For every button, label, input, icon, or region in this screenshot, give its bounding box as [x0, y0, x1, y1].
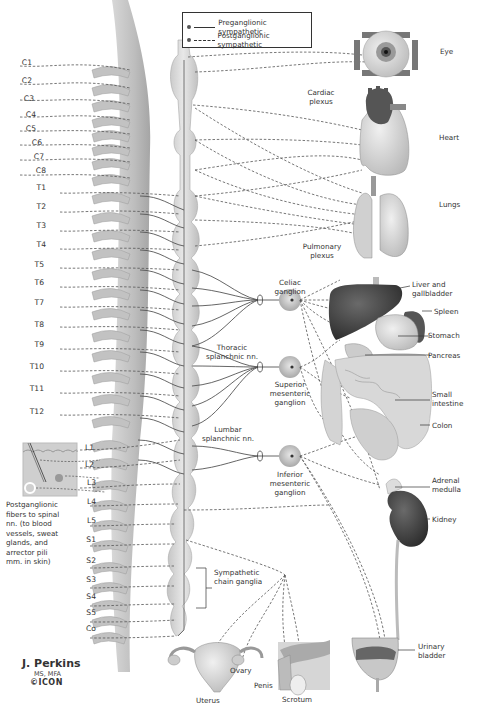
- segment-label: L5: [74, 516, 96, 525]
- prevertebral-ganglia: [279, 289, 301, 467]
- label-lumbar-splanchnic: Lumbar splanchnic nn.: [196, 425, 260, 443]
- segment-label: C4: [14, 110, 36, 119]
- label-eye: Eye: [440, 47, 453, 56]
- segment-label: S2: [74, 556, 96, 565]
- dot-icon: [187, 25, 191, 29]
- dot-icon: [187, 38, 191, 42]
- artist-signature: J. Perkins MS, MFA ©ICON: [22, 657, 81, 687]
- legend: Preganglionic sympathetic Postganglionic…: [182, 12, 312, 48]
- label-penis: Penis: [254, 681, 273, 690]
- segment-label: T10: [22, 362, 44, 371]
- label-liver: Liver and gallbladder: [412, 280, 452, 298]
- sympathetic-nervous-system-diagram: Preganglionic sympathetic Postganglionic…: [0, 0, 480, 727]
- solid-line-icon: [194, 27, 215, 28]
- segment-label: C2: [10, 76, 32, 85]
- label-celiac-ganglion: Celiac ganglion: [260, 278, 320, 296]
- lungs-illustration: [353, 176, 408, 258]
- superior-mesenteric-ganglion: [279, 356, 301, 378]
- sympathetic-chain: [167, 40, 199, 636]
- label-superior-mesenteric-ganglion: Superior mesenteric ganglion: [258, 380, 322, 407]
- segment-label: C7: [22, 152, 44, 161]
- eye-illustration: [354, 31, 418, 77]
- label-pancreas: Pancreas: [428, 351, 460, 360]
- dashed-line-icon: [194, 40, 215, 41]
- segment-label: T11: [22, 384, 44, 393]
- label-urinary-bladder: Urinary bladder: [418, 642, 445, 660]
- publisher-logo: ©ICON: [30, 678, 81, 687]
- segment-label: L2: [72, 460, 94, 469]
- label-spleen: Spleen: [434, 307, 459, 316]
- label-stomach: Stomach: [428, 331, 460, 340]
- segment-label: C1: [10, 58, 32, 67]
- segment-label: T4: [24, 240, 46, 249]
- stomach-illustration: [376, 315, 419, 350]
- label-heart: Heart: [439, 133, 459, 142]
- segment-label: S5: [74, 608, 96, 617]
- segment-label: L4: [74, 497, 96, 506]
- label-lungs: Lungs: [439, 200, 460, 209]
- segment-label: T3: [24, 221, 46, 230]
- label-small-intestine: Small intestine: [432, 390, 463, 408]
- heart-illustration: [360, 86, 409, 175]
- segment-label: C5: [14, 124, 36, 133]
- segment-label: T2: [24, 202, 46, 211]
- segment-label: T12: [22, 407, 44, 416]
- label-scrotum: Scrotum: [282, 695, 312, 704]
- skin-note: Postganglionic fibers to spinal nn. (to …: [6, 500, 59, 567]
- inferior-mesenteric-ganglion: [279, 445, 301, 467]
- label-adrenal-medulla: Adrenal medulla: [432, 476, 461, 494]
- label-kidney: Kidney: [432, 515, 457, 524]
- segment-label: T6: [22, 278, 44, 287]
- legend-postganglionic: Postganglionic sympathetic: [187, 31, 311, 49]
- label-pulmonary-plexus: Pulmonary plexus: [292, 242, 352, 260]
- label-thoracic-splanchnic: Thoracic splanchnic nn.: [200, 343, 264, 361]
- kidney-illustration: [386, 479, 428, 640]
- segment-label: S4: [74, 592, 96, 601]
- male-genitalia-illustration: [278, 640, 330, 695]
- segment-label: L1: [72, 443, 94, 452]
- label-uterus: Uterus: [196, 696, 220, 705]
- segment-label: S3: [74, 575, 96, 584]
- segment-label: T7: [22, 298, 44, 307]
- segment-label: C6: [20, 138, 42, 147]
- segment-label: Co: [74, 624, 96, 633]
- segment-label: T1: [24, 183, 46, 192]
- segment-label: S1: [74, 535, 96, 544]
- segment-label: C8: [24, 166, 46, 175]
- segment-label: L3: [74, 478, 96, 487]
- segment-label: T5: [22, 260, 44, 269]
- label-ovary: Ovary: [230, 666, 252, 675]
- label-inferior-mesenteric-ganglion: Inferior mesenteric ganglion: [258, 470, 322, 497]
- label-sympathetic-chain-ganglia: Sympathetic chain ganglia: [214, 568, 262, 586]
- segment-label: T9: [22, 340, 44, 349]
- spinal-cord: [92, 0, 150, 672]
- segment-label: C3: [12, 94, 34, 103]
- label-cardiac-plexus: Cardiac plexus: [296, 88, 346, 106]
- label-colon: Colon: [432, 421, 452, 430]
- chain-ganglia-bracket: [196, 568, 212, 608]
- intestines-illustration: [321, 354, 431, 460]
- segment-label: T8: [22, 320, 44, 329]
- urinary-bladder-illustration: [352, 638, 398, 692]
